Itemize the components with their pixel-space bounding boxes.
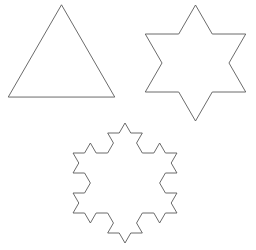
figure-canvas — [0, 0, 256, 250]
triangle — [8, 5, 115, 97]
shape-layer — [8, 5, 245, 243]
koch-snowflake — [73, 123, 177, 243]
six-pointed-star — [145, 5, 245, 121]
koch-diagram — [0, 0, 256, 250]
